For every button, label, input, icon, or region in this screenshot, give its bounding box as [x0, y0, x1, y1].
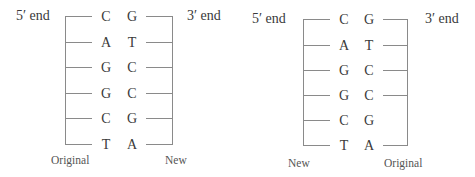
right-tick: [383, 45, 408, 46]
right-tick: [146, 67, 173, 68]
dna-diagram-2: 5′ end 3′ end C G A T G C G C C G T A Ne…: [235, 0, 472, 177]
right-base: C: [362, 89, 376, 103]
left-base: C: [337, 114, 351, 128]
right-tick: [383, 145, 408, 146]
left-backbone: [65, 16, 66, 144]
left-tick: [303, 120, 330, 121]
left-tick: [65, 93, 92, 94]
right-base: G: [362, 13, 376, 27]
right-tick: [146, 42, 173, 43]
left-tick: [65, 118, 92, 119]
left-strand-label: New: [288, 158, 310, 170]
dna-diagram-1: 5′ end 3′ end C G A T G C G C C G T A: [0, 0, 237, 177]
left-base: A: [99, 36, 113, 50]
left-tick: [303, 19, 330, 20]
left-base: T: [337, 139, 351, 153]
left-tick: [303, 145, 330, 146]
right-base: G: [362, 114, 376, 128]
right-base: T: [125, 36, 139, 50]
left-strand-label: Original: [51, 155, 89, 167]
left-base: C: [337, 13, 351, 27]
five-prime-label: 5′ end: [252, 12, 286, 26]
right-tick: [146, 93, 173, 94]
left-tick: [303, 45, 330, 46]
right-tick: [146, 16, 173, 17]
right-base: G: [125, 112, 139, 126]
right-base: C: [125, 87, 139, 101]
right-backbone: [407, 19, 408, 146]
left-base: G: [99, 61, 113, 75]
three-prime-label: 3′ end: [187, 9, 221, 23]
left-tick: [65, 144, 92, 145]
left-tick: [65, 42, 92, 43]
right-base: G: [125, 10, 139, 24]
right-strand-label: New: [165, 155, 187, 167]
three-prime-label: 3′ end: [425, 12, 459, 26]
left-base: A: [337, 39, 351, 53]
right-base: A: [125, 138, 139, 152]
right-backbone: [172, 16, 173, 144]
left-tick: [303, 95, 330, 96]
left-tick: [65, 16, 92, 17]
five-prime-label: 5′ end: [16, 9, 50, 23]
right-tick: [383, 70, 408, 71]
right-tick: [383, 19, 408, 20]
left-base: C: [99, 10, 113, 24]
left-tick: [303, 70, 330, 71]
left-base: G: [337, 64, 351, 78]
right-base: A: [362, 139, 376, 153]
left-base: G: [337, 89, 351, 103]
left-base: T: [99, 138, 113, 152]
left-backbone: [303, 19, 304, 146]
right-base: C: [125, 61, 139, 75]
right-base: T: [362, 39, 376, 53]
right-base: C: [362, 64, 376, 78]
right-tick: [146, 118, 173, 119]
left-base: C: [99, 112, 113, 126]
right-tick: [146, 144, 173, 145]
left-base: G: [99, 87, 113, 101]
right-strand-label: Original: [384, 158, 422, 170]
right-tick: [383, 95, 408, 96]
left-tick: [65, 67, 92, 68]
